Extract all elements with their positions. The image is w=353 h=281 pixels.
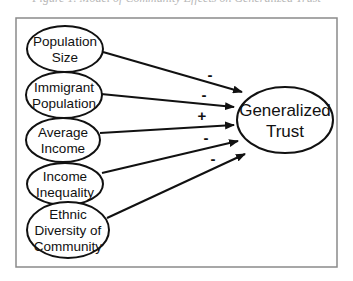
node-average-income: AverageIncome (26, 118, 100, 162)
positive-sign-label: + (198, 107, 207, 124)
arrow (102, 141, 238, 173)
negative-sign-label: - (204, 129, 209, 146)
node-label-line: Trust (266, 122, 304, 141)
node-label-line: Size (52, 50, 78, 65)
path-diagram: --+-- PopulationSizeImmigrantPopulationA… (0, 0, 353, 281)
edge-population-size: - (103, 52, 242, 92)
target-node-group: GeneralizedTrust (237, 87, 333, 153)
edge-immigrant-population: - (101, 86, 234, 107)
node-immigrant-population: ImmigrantPopulation (26, 72, 102, 118)
edges-group: --+-- (100, 52, 245, 218)
nodes-group: PopulationSizeImmigrantPopulationAverage… (26, 26, 109, 258)
node-label-line: Population (33, 34, 97, 49)
arrow (100, 125, 234, 133)
node-label-line: Ethnic (49, 207, 87, 222)
node-label-line: Diversity of (35, 223, 102, 238)
node-ellipse (237, 87, 333, 153)
edge-ethnic-diversity: - (107, 150, 245, 218)
node-generalized-trust: GeneralizedTrust (237, 87, 333, 153)
arrow (101, 94, 234, 107)
node-ethnic-diversity: EthnicDiversity ofCommunity (27, 202, 109, 258)
node-label-line: Community (34, 239, 103, 254)
node-label-line: Average (38, 125, 88, 140)
node-label-line: Income (41, 141, 85, 156)
node-label-line: Generalized (239, 101, 331, 120)
node-label-line: Income (43, 169, 87, 184)
node-income-inequality: IncomeInequality (27, 163, 103, 205)
negative-sign-label: - (208, 66, 213, 83)
negative-sign-label: - (211, 150, 216, 167)
node-population-size: PopulationSize (27, 26, 103, 72)
node-label-line: Immigrant (34, 80, 94, 95)
node-label-line: Inequality (36, 185, 94, 200)
node-label-line: Population (32, 96, 96, 111)
arrow (103, 52, 242, 92)
edge-average-income: + (100, 107, 234, 133)
negative-sign-label: - (202, 86, 207, 103)
arrow (107, 154, 245, 218)
